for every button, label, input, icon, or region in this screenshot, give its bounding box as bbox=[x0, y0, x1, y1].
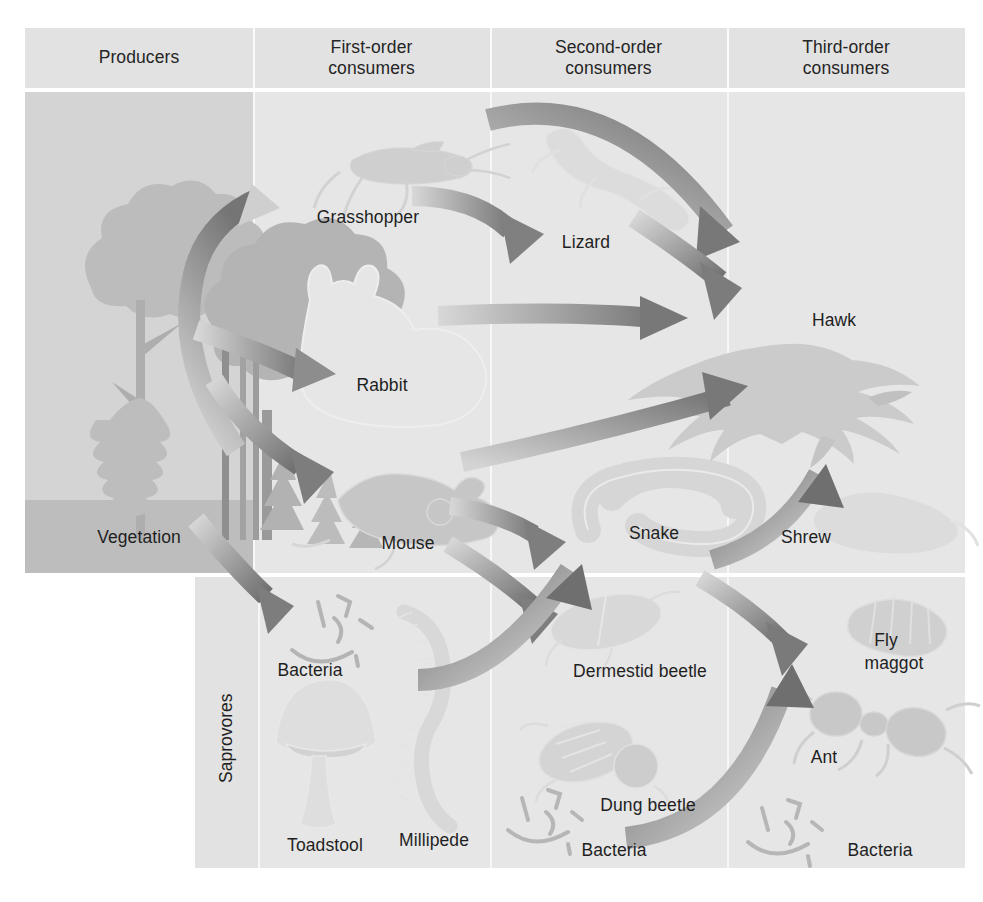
header-second-order-label: Second-order consumers bbox=[555, 37, 662, 80]
label-snake: Snake bbox=[629, 523, 679, 544]
label-shrew: Shrew bbox=[781, 527, 831, 548]
label-bacteria-3: Bacteria bbox=[848, 840, 913, 861]
label-ant: Ant bbox=[811, 747, 838, 768]
label-grasshopper: Grasshopper bbox=[317, 207, 419, 228]
saprovore-separator-2 bbox=[727, 577, 729, 868]
saprovore-separator-1 bbox=[490, 577, 492, 868]
column-separator-1 bbox=[253, 92, 255, 573]
header-third-order: Third-order consumers bbox=[727, 28, 965, 88]
column-separator-2 bbox=[490, 92, 492, 573]
label-vegetation: Vegetation bbox=[97, 527, 181, 548]
label-bacteria-1: Bacteria bbox=[278, 660, 343, 681]
food-web-diagram: Producers First-order consumers Second-o… bbox=[0, 0, 983, 902]
header-second-order-line2: consumers bbox=[565, 58, 652, 78]
label-dung-beetle: Dung beetle bbox=[600, 795, 695, 816]
header-third-order-line2: consumers bbox=[803, 58, 890, 78]
column-separator-3 bbox=[727, 92, 729, 573]
header-first-order-label: First-order consumers bbox=[328, 37, 415, 80]
header-second-order-line1: Second-order bbox=[555, 37, 662, 57]
label-millipede: Millipede bbox=[399, 830, 469, 851]
saprovore-separator-0 bbox=[258, 577, 260, 868]
label-toadstool: Toadstool bbox=[287, 835, 363, 856]
label-rabbit: Rabbit bbox=[356, 375, 407, 396]
header-first-order-line2: consumers bbox=[328, 58, 415, 78]
header-band: Producers First-order consumers Second-o… bbox=[25, 28, 965, 88]
header-first-order-line1: First-order bbox=[331, 37, 413, 57]
header-producers: Producers bbox=[25, 28, 253, 88]
header-first-order: First-order consumers bbox=[253, 28, 490, 88]
header-third-order-line1: Third-order bbox=[802, 37, 890, 57]
header-third-order-label: Third-order consumers bbox=[802, 37, 890, 80]
label-saprovores: Saprovores bbox=[216, 694, 237, 784]
label-hawk: Hawk bbox=[812, 310, 856, 331]
label-fly: Fly bbox=[874, 630, 898, 651]
header-producers-label: Producers bbox=[99, 47, 180, 68]
header-second-order: Second-order consumers bbox=[490, 28, 727, 88]
label-mouse: Mouse bbox=[381, 533, 434, 554]
label-maggot: maggot bbox=[865, 653, 924, 674]
label-lizard: Lizard bbox=[562, 232, 610, 253]
label-bacteria-2: Bacteria bbox=[582, 840, 647, 861]
label-dermestid-beetle: Dermestid beetle bbox=[573, 661, 707, 682]
saprovores-row-background bbox=[195, 577, 965, 868]
